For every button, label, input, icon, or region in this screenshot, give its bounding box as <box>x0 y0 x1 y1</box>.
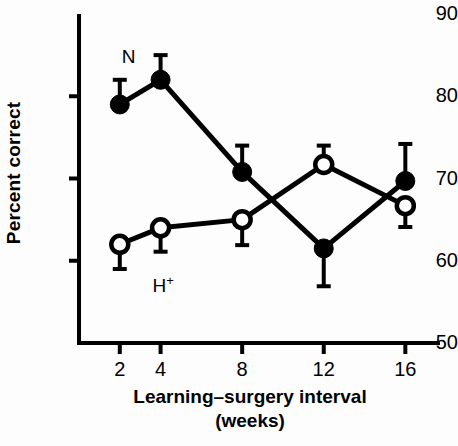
data-point-open <box>234 211 251 228</box>
data-point-open <box>315 156 332 173</box>
series-annotation-superscript: + <box>166 273 174 288</box>
data-point-filled <box>110 95 129 114</box>
x-axis-title: Learning–surgery interval (weeks) <box>60 385 440 434</box>
x-axis-title-line2: (weeks) <box>60 409 440 433</box>
data-point-open <box>152 219 169 236</box>
series-annotation-n: N <box>122 47 136 66</box>
series-annotation-hplus: H+ <box>152 274 173 295</box>
x-tick-label: 2 <box>100 359 140 379</box>
data-point-open <box>397 197 414 214</box>
data-point-filled <box>151 70 170 89</box>
chart-figure: Percent correct 5060708090 2481216 NH+ L… <box>0 0 458 446</box>
x-tick-label: 8 <box>222 359 262 379</box>
x-axis-title-line1: Learning–surgery interval <box>60 385 440 409</box>
x-tick-label: 16 <box>385 359 425 379</box>
plot-area <box>0 0 458 446</box>
data-point-open <box>111 236 128 253</box>
data-point-filled <box>396 171 415 190</box>
x-tick-label: 12 <box>304 359 344 379</box>
x-tick-label: 4 <box>141 359 181 379</box>
data-point-filled <box>314 239 333 258</box>
data-point-filled <box>233 162 252 181</box>
